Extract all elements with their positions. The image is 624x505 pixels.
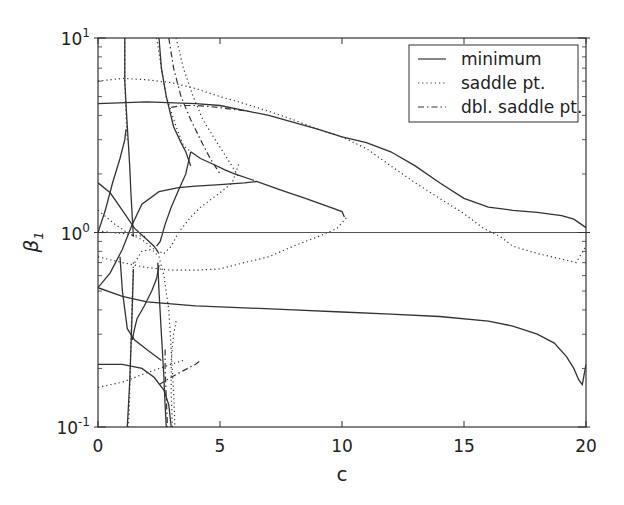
series-dbl-saddle-pt--curve <box>171 106 249 112</box>
series-saddle-pt--curve <box>157 38 191 152</box>
x-axis-title: c <box>337 462 348 486</box>
y-tick-label: 101 <box>61 26 90 49</box>
x-tick-label: 20 <box>575 436 597 456</box>
y-tick-label: 10-1 <box>56 415 90 438</box>
legend-label: dbl. saddle pt. <box>461 97 582 117</box>
x-tick-label: 5 <box>215 436 226 456</box>
series-minimum-curve <box>125 38 134 237</box>
y-axis-title: β1 <box>19 231 46 253</box>
y-tick-label: 100 <box>61 221 90 244</box>
series-saddle-pt--curve <box>171 321 176 427</box>
series-minimum-curve <box>98 182 344 288</box>
series-minimum-curve <box>120 257 161 361</box>
x-tick-label: 10 <box>331 436 353 456</box>
series-minimum-curve <box>98 364 171 427</box>
series-minimum-curve <box>158 263 167 427</box>
legend-label: minimum <box>461 49 542 69</box>
legend: minimumsaddle pt.dbl. saddle pt. <box>409 45 582 122</box>
legend-label: saddle pt. <box>461 73 545 93</box>
series-saddle-pt--curve <box>164 162 240 253</box>
series-minimum-curve <box>98 288 586 385</box>
series-saddle-pt--curve <box>135 249 175 427</box>
series-minimum-curve <box>191 152 255 181</box>
series-minimum-curve <box>98 183 159 254</box>
x-tick-label: 15 <box>453 436 475 456</box>
series-minimum-curve <box>98 129 126 232</box>
x-tick-label: 0 <box>93 436 104 456</box>
svg-text:β1: β1 <box>19 231 46 253</box>
series-saddle-pt--curve <box>98 231 147 237</box>
chart-plot: 05101520 10-1100101 c β1 minimumsaddle p… <box>0 0 624 505</box>
